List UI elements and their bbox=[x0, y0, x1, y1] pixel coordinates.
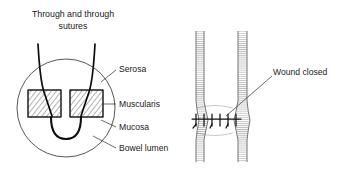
label-wound-closed: Wound closed bbox=[273, 67, 328, 77]
bowel-tube-group: Wound closed bbox=[192, 31, 328, 162]
label-serosa: Serosa bbox=[119, 64, 146, 74]
tube-wall-right bbox=[234, 31, 250, 162]
label-bowel-lumen: Bowel lumen bbox=[119, 143, 168, 153]
tube-wall-left bbox=[196, 31, 208, 162]
label-muscularis: Muscularis bbox=[119, 99, 160, 109]
diagram-canvas: Through and through sutures bbox=[0, 0, 347, 174]
label-mucosa: Mucosa bbox=[119, 122, 149, 132]
diagram-title-line-1: Through and through bbox=[32, 9, 114, 19]
bowel-wall-block-right bbox=[70, 90, 103, 117]
diagram-title-line-2: sutures bbox=[59, 21, 88, 31]
cross-section-group: Serosa Muscularis Mucosa Bowel lumen bbox=[17, 44, 168, 157]
leader-line-wound-closed bbox=[226, 76, 272, 116]
bowel-suture-diagram: Through and through sutures bbox=[0, 0, 347, 174]
